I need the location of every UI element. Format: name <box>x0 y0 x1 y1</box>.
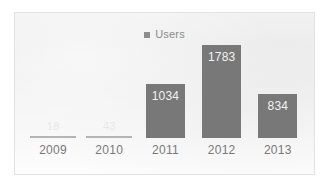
legend-series-label: Users <box>155 29 185 40</box>
bar-slot-2011: 1034 <box>139 43 191 138</box>
plot-area: 18 43 1034 1783 834 <box>25 43 306 166</box>
bar-slot-2009: 18 <box>27 43 79 138</box>
bar-2012[interactable]: 1783 <box>202 45 241 138</box>
x-axis-tick-2011: 2011 <box>139 140 191 156</box>
legend-square-swatch-icon <box>144 32 150 38</box>
x-axis-tick-2010: 2010 <box>83 140 135 156</box>
bar-chart-figure: Users 18 43 1034 1783 <box>14 12 315 175</box>
bar-value-label: 43 <box>86 121 132 132</box>
bar-value-label: 18 <box>30 121 76 132</box>
bars-container: 18 43 1034 1783 834 <box>25 43 306 138</box>
x-axis-tick-labels: 2009 2010 2011 2012 2013 <box>25 140 306 164</box>
bar-2010[interactable]: 43 <box>86 136 132 138</box>
bar-slot-2013: 834 <box>252 43 304 138</box>
bar-value-label: 1034 <box>146 90 185 102</box>
bar-2013[interactable]: 834 <box>258 94 297 138</box>
x-axis-tick-2013: 2013 <box>252 140 304 156</box>
chart-legend: Users <box>15 29 314 40</box>
bar-2009[interactable]: 18 <box>30 136 76 138</box>
bar-value-label: 834 <box>258 100 297 112</box>
bar-slot-2010: 43 <box>83 43 135 138</box>
x-axis-tick-2009: 2009 <box>27 140 79 156</box>
bar-2011[interactable]: 1034 <box>146 84 185 138</box>
x-axis-tick-2012: 2012 <box>196 140 248 156</box>
bar-slot-2012: 1783 <box>196 43 248 138</box>
bar-value-label: 1783 <box>202 51 241 63</box>
